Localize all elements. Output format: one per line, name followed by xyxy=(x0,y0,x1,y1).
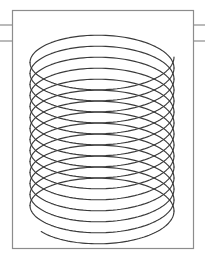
coil-spring-figure xyxy=(0,0,205,264)
figure-screenshot xyxy=(0,0,205,264)
